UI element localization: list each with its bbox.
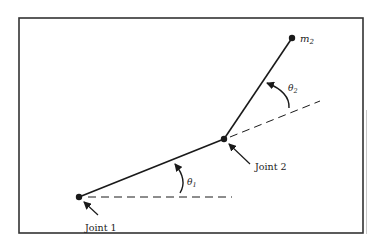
theta2-label: θ2: [288, 83, 298, 95]
mass-dot: [289, 35, 295, 41]
link-1: [79, 139, 224, 197]
joint-2-pointer-icon: [229, 144, 250, 164]
reference-line-2: [230, 101, 320, 137]
joint-2-label: Joint 2: [254, 161, 287, 172]
theta1-arc-icon: [175, 164, 183, 193]
mass-label: m2: [300, 33, 314, 46]
joint-1-pointer-icon: [84, 202, 98, 215]
joint-1-label: Joint 1: [84, 222, 117, 233]
figure-frame: [19, 18, 363, 233]
joint-1-dot: [76, 194, 82, 200]
arm-diagram: Joint 1 Joint 2 m2 θ1 θ2: [0, 0, 383, 246]
link-2: [224, 38, 292, 139]
theta2-arc-icon: [267, 83, 289, 108]
joint-2-dot: [221, 136, 227, 142]
theta1-label: θ1: [187, 177, 197, 189]
